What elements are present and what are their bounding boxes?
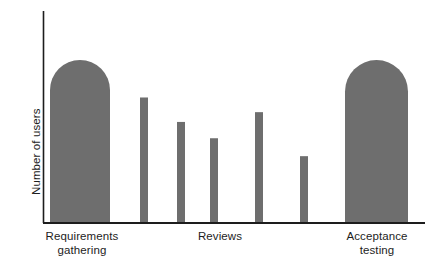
x-axis-category-label-acceptance-testing: Acceptance testing (327, 229, 427, 257)
y-axis-label: Number of users (26, 0, 46, 195)
bar-review-activity-2 (177, 122, 185, 223)
bar-review-activity-4 (255, 112, 263, 223)
x-axis-category-label-reviews: Reviews (175, 229, 265, 243)
bar-chart: Number of users Requirements gathering R… (0, 0, 433, 277)
x-axis-category-label-requirements-gathering: Requirements gathering (30, 229, 134, 257)
bar-acceptance-testing (345, 60, 408, 223)
bar-review-activity-5 (300, 156, 308, 223)
bar-review-activity-3 (210, 138, 218, 223)
bar-review-activity-1 (140, 97, 148, 223)
bar-requirements-gathering (50, 60, 110, 223)
